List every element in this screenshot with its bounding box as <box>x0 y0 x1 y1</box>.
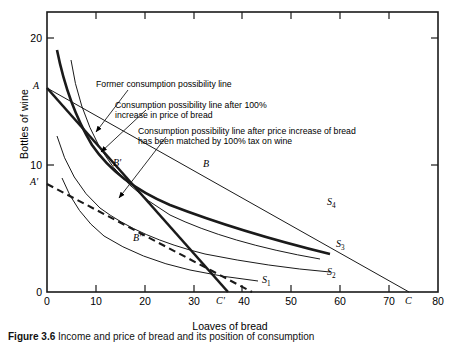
point-label-c: C <box>405 295 412 306</box>
x-tick-20: 20 <box>132 295 158 307</box>
point-label-a-prime: A' <box>30 176 38 187</box>
x-tick-50: 50 <box>278 295 304 307</box>
budget-line-after-tax <box>47 184 252 292</box>
curve-label-s4: S4 <box>327 196 336 210</box>
annotation-price-increase-line: Consumption possibility line after 100% … <box>115 100 267 121</box>
chart-canvas <box>0 0 460 343</box>
x-tick-10: 10 <box>83 295 109 307</box>
plot-frame <box>47 12 438 292</box>
curve-s1 <box>62 178 258 281</box>
x-tick-80: 80 <box>425 295 451 307</box>
point-label-b: B <box>203 158 209 169</box>
x-axis-ticks <box>96 12 389 292</box>
curve-label-s2: S2 <box>327 266 336 280</box>
point-label-b-double-prime: B″ <box>133 232 143 243</box>
y-tick-10: 10 <box>20 159 42 171</box>
y-tick-20: 20 <box>20 32 42 44</box>
x-tick-70: 70 <box>376 295 402 307</box>
x-tick-40: 40 <box>231 295 257 307</box>
figure-container: Bottles of wine Loaves of bread 0 10 20 … <box>0 0 460 343</box>
curve-s4 <box>71 60 320 259</box>
figure-caption: Figure 3.6 Income and price of bread and… <box>8 331 460 343</box>
point-label-a: A <box>33 80 39 91</box>
curve-label-s3: S3 <box>336 238 345 252</box>
curve-label-s1: S1 <box>262 274 271 288</box>
caption-label: Figure 3.6 <box>8 331 58 342</box>
annotation-tax-line: Consumption possibility line after price… <box>138 126 356 147</box>
caption-text: Income and price of bread and its positi… <box>58 331 314 342</box>
x-tick-30: 30 <box>181 295 207 307</box>
point-label-b-prime: B' <box>113 157 121 168</box>
x-tick-60: 60 <box>327 295 353 307</box>
point-label-c-prime: C' <box>216 295 225 306</box>
annotation-former-line: Former consumption possibility line <box>96 79 232 89</box>
y-tick-0: 0 <box>20 286 42 298</box>
